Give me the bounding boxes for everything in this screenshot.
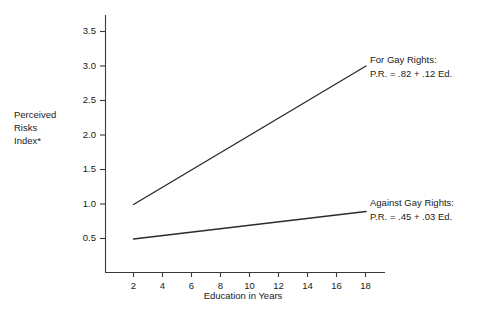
- x-axis-title: Education in Years: [0, 291, 486, 301]
- y-tick-label-1.0: 1.0: [62, 199, 96, 209]
- y-tick-label-3.5: 3.5: [62, 26, 96, 36]
- y-axis-title: Perceived Risks Index*: [14, 108, 86, 147]
- x-tick-label-14: 14: [293, 281, 323, 291]
- series-line-against-gay-rights: [134, 212, 367, 240]
- x-tick-label-18: 18: [351, 281, 381, 291]
- annotation-against-gay-rights: Against Gay Rights: P.R. = .45 + .03 Ed.: [370, 196, 454, 223]
- annotation-for-gay-rights: For Gay Rights: P.R. = .82 + .12 Ed.: [370, 53, 452, 80]
- y-tick-label-2.5: 2.5: [62, 95, 96, 105]
- annotation-against-gay-rights-line1: Against Gay Rights:: [370, 196, 454, 210]
- y-axis-title-line3: Index*: [14, 134, 86, 147]
- annotation-for-gay-rights-line2: P.R. = .82 + .12 Ed.: [370, 67, 452, 81]
- y-axis-title-line2: Risks: [14, 121, 86, 134]
- annotation-against-gay-rights-line2: P.R. = .45 + .03 Ed.: [370, 210, 454, 224]
- y-tick-label-3.0: 3.0: [62, 61, 96, 71]
- x-tick-label-16: 16: [322, 281, 352, 291]
- chart-figure: 3.5 3.0 2.5 2.0 1.5 1.0 0.5 2 4 6 8 10 1…: [0, 0, 486, 318]
- annotation-for-gay-rights-line1: For Gay Rights:: [370, 53, 452, 67]
- y-tick-label-1.5: 1.5: [62, 164, 96, 174]
- x-tick-label-6: 6: [177, 281, 207, 291]
- x-tick-label-2: 2: [119, 281, 149, 291]
- y-axis-title-line1: Perceived: [14, 108, 86, 121]
- x-tick-label-4: 4: [148, 281, 178, 291]
- y-tick-marks: [100, 32, 105, 239]
- series-line-for-gay-rights: [134, 66, 367, 205]
- y-tick-label-0.5: 0.5: [62, 233, 96, 243]
- chart-plot-area: [0, 0, 486, 318]
